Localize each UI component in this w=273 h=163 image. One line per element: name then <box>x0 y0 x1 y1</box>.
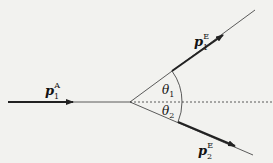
outgoing-momentum-label-2: p2E <box>198 142 213 161</box>
scattering-diagram: p1A p1E p2E θ1 θ2 <box>0 0 273 163</box>
diagram-lines <box>0 0 273 163</box>
incoming-momentum-label: p1A <box>45 82 60 101</box>
angle-label-2: θ2 <box>162 105 174 120</box>
angle-label-1: θ1 <box>162 84 174 99</box>
angle-arc-2 <box>178 102 182 122</box>
outgoing-momentum-label-1: p1E <box>194 33 209 52</box>
